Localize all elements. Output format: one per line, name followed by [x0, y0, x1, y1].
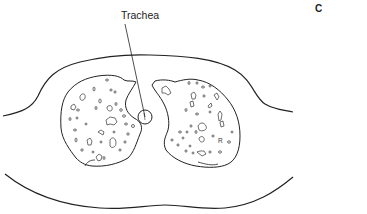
- trachea-label: Trachea: [121, 9, 159, 21]
- body-outline-lower: [5, 174, 293, 208]
- right-lung: R: [152, 79, 240, 167]
- panel-letter: C: [315, 3, 322, 14]
- chest-cross-section-drawing: R: [0, 0, 367, 214]
- body-outline-upper: [3, 55, 293, 116]
- left-lung: [61, 75, 142, 166]
- diagram-canvas: R Trachea C: [0, 0, 367, 214]
- right-lung-marker: R: [218, 137, 223, 144]
- trachea-leader-line: [125, 24, 145, 117]
